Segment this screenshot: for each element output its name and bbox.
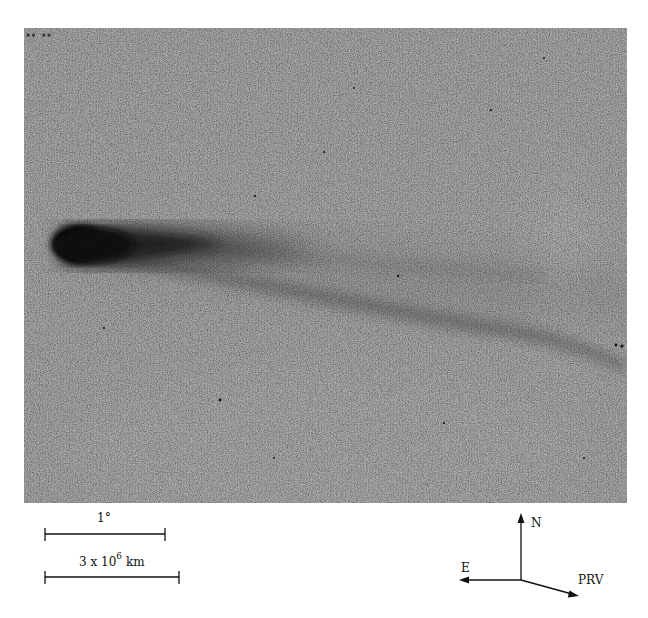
scale-label-degree: 1° bbox=[97, 511, 111, 525]
compass-east-label: E bbox=[461, 561, 470, 575]
scale-label-base: 3 x 10 bbox=[79, 555, 116, 569]
compass bbox=[459, 513, 579, 598]
prv-arrow-shaft bbox=[521, 580, 572, 594]
scale-bar-degree bbox=[45, 528, 165, 541]
scale-label-distance: 3 x 106 km bbox=[79, 553, 145, 569]
east-arrowhead-icon bbox=[459, 577, 469, 584]
figure-annotations bbox=[0, 0, 648, 618]
north-arrowhead-icon bbox=[518, 513, 525, 523]
compass-north-label: N bbox=[531, 516, 542, 530]
prv-arrowhead-icon bbox=[568, 591, 579, 598]
scale-label-exponent: 6 bbox=[116, 551, 122, 561]
scale-label-unit: km bbox=[126, 555, 145, 569]
compass-prv-label: PRV bbox=[578, 573, 603, 587]
scale-bar-distance bbox=[45, 571, 179, 584]
